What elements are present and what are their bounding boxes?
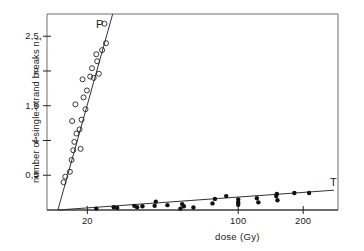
data-points-series-p [61,21,109,184]
chart-canvas [0,0,364,251]
x-axis-title: dose (Gy) [215,231,260,242]
series-label-t: T [330,176,337,188]
fit-lines [58,14,334,210]
y-axis-title-text: number of single-strand breaks n [30,41,41,183]
plot-frame [47,14,338,210]
y-tick-label: 1 [0,134,39,145]
x-tick-label: 100 [218,215,258,226]
y-tick-label: 0,5 [0,169,39,180]
data-points-series-t [94,191,311,211]
x-tick-label: 20 [67,215,107,226]
y-tick-label: 2,5 [0,30,39,41]
figure-container: number of single-strand breaks n1 dose (… [0,0,364,251]
y-tick-label: 2 [0,65,39,76]
y-tick-label: 1,5 [0,100,39,111]
x-tick-label: 200 [283,215,323,226]
series-label-p: P [96,18,103,30]
